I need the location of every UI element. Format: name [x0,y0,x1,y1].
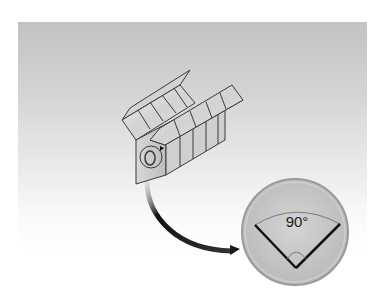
curved-arrow [147,183,232,251]
engine-diagram: 90° [0,0,383,300]
engine-block [122,70,243,184]
angle-label: 90° [286,213,309,230]
arrow-head-icon [230,245,240,255]
v-angle-inset: 90° [242,179,348,285]
